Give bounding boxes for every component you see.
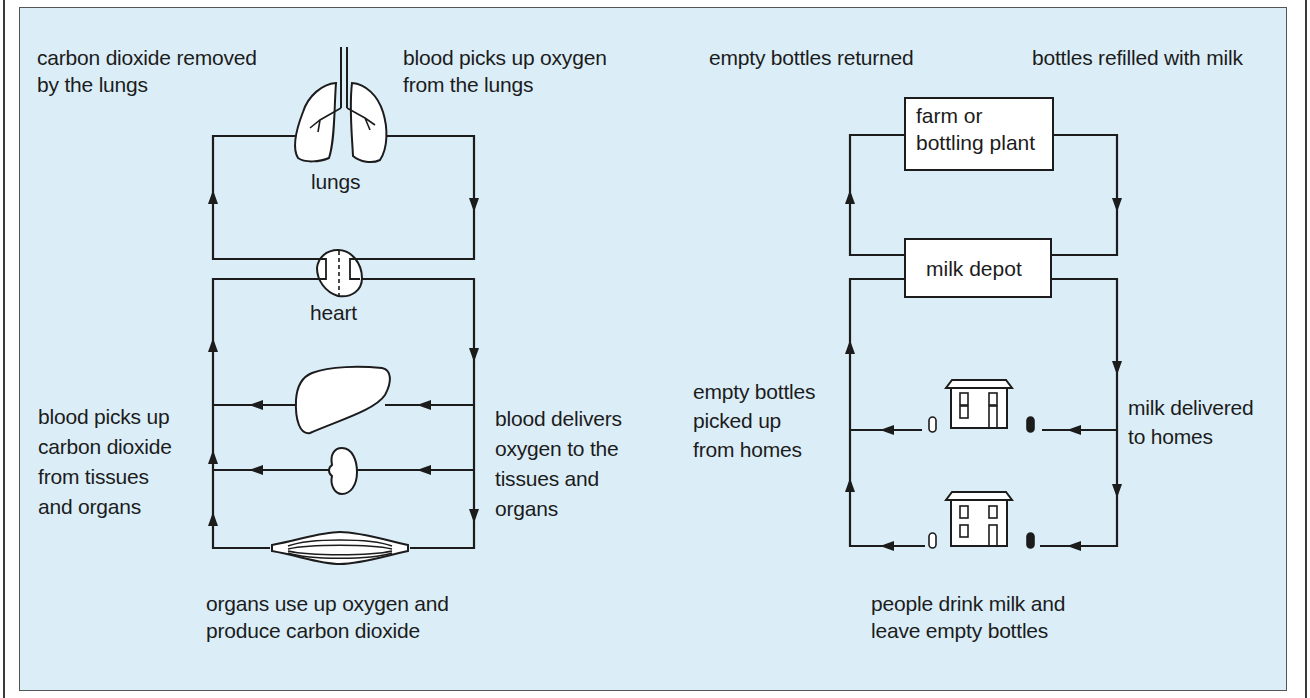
lungs-label: lungs bbox=[311, 168, 360, 195]
bottles-picked-up-label: empty bottles picked up from homes bbox=[693, 377, 815, 464]
empty-bottle-icon bbox=[929, 417, 936, 548]
co2-pickup-label: blood picks up carbon dioxide from tissu… bbox=[38, 402, 172, 522]
heart-label: heart bbox=[310, 299, 357, 326]
lungs-icon bbox=[295, 47, 386, 162]
farm-box: farm or bottling plant bbox=[904, 97, 1054, 171]
diagram-lines bbox=[0, 0, 1310, 698]
full-bottle-icon bbox=[1027, 417, 1034, 548]
co2-removed-label: carbon dioxide removed by the lungs bbox=[37, 44, 257, 98]
milk-circuit bbox=[850, 135, 1117, 546]
oxygen-delivery-label: blood delivers oxygen to the tissues and… bbox=[495, 404, 622, 524]
organs-label: organs use up oxygen and produce carbon … bbox=[206, 590, 449, 644]
kidney-icon bbox=[329, 448, 357, 494]
milk-depot-box: milk depot bbox=[904, 238, 1052, 298]
liver-icon bbox=[296, 367, 390, 433]
people-drink-label: people drink milk and leave empty bottle… bbox=[871, 590, 1065, 644]
house-icon bbox=[946, 492, 1012, 546]
muscle-icon bbox=[272, 532, 408, 564]
oxygen-pickup-label: blood picks up oxygen from the lungs bbox=[403, 44, 607, 98]
heart-icon bbox=[317, 250, 362, 296]
bottles-refilled-label: bottles refilled with milk bbox=[1032, 44, 1243, 71]
milk-delivered-label: milk delivered to homes bbox=[1128, 393, 1254, 451]
bottles-returned-label: empty bottles returned bbox=[709, 44, 914, 71]
house-icon bbox=[946, 380, 1012, 428]
